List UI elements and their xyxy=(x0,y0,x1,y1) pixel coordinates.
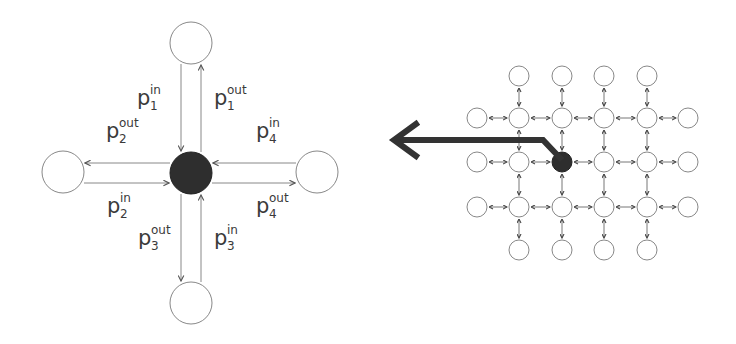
boundary-node-south xyxy=(509,240,529,260)
label-superscript: in xyxy=(269,117,280,129)
label-superscript: in xyxy=(120,192,131,204)
label-base: p xyxy=(256,119,269,143)
label-base: p xyxy=(107,194,120,218)
label-p1in: pin1 xyxy=(137,88,150,109)
label-base: p xyxy=(137,86,150,110)
grid-node xyxy=(637,152,657,172)
neighbor-node-north xyxy=(170,22,212,64)
grid-node xyxy=(552,197,572,217)
boundary-node-west xyxy=(467,108,487,128)
boundary-node-north xyxy=(594,66,614,86)
label-p4out: pout4 xyxy=(256,196,269,217)
diagram-canvas xyxy=(0,0,736,344)
label-superscript: in xyxy=(150,84,161,96)
neighbor-node-east xyxy=(296,151,338,193)
label-base: p xyxy=(138,226,151,250)
label-superscript: out xyxy=(119,117,139,129)
label-subscript: 1 xyxy=(150,100,158,112)
label-subscript: 4 xyxy=(269,133,277,145)
label-p2in: pin2 xyxy=(107,196,120,217)
label-base: p xyxy=(214,226,227,250)
label-p4in: pin4 xyxy=(256,121,269,142)
grid-node xyxy=(594,108,614,128)
label-subscript: 2 xyxy=(120,208,128,220)
label-superscript: out xyxy=(269,192,289,204)
grid-node xyxy=(509,197,529,217)
label-subscript: 2 xyxy=(119,133,127,145)
grid-node xyxy=(594,197,614,217)
label-superscript: out xyxy=(151,224,171,236)
neighbor-node-west xyxy=(42,151,84,193)
label-superscript: in xyxy=(227,224,238,236)
grid-node xyxy=(594,152,614,172)
boundary-node-north xyxy=(637,66,657,86)
grid-node xyxy=(509,108,529,128)
boundary-node-south xyxy=(637,240,657,260)
label-p1out: pout1 xyxy=(214,88,227,109)
label-base: p xyxy=(106,119,119,143)
center-node xyxy=(170,152,212,194)
grid-node xyxy=(637,197,657,217)
neighbor-node-south xyxy=(170,282,212,324)
label-p3out: pout3 xyxy=(138,228,151,249)
label-subscript: 4 xyxy=(269,208,277,220)
boundary-node-west xyxy=(467,197,487,217)
label-subscript: 3 xyxy=(227,240,235,252)
single-node-diagram xyxy=(42,22,338,324)
label-base: p xyxy=(256,194,269,218)
grid-node xyxy=(637,108,657,128)
boundary-node-south xyxy=(552,240,572,260)
boundary-node-north xyxy=(552,66,572,86)
label-superscript: out xyxy=(227,84,247,96)
label-subscript: 1 xyxy=(227,100,235,112)
boundary-node-east xyxy=(678,197,698,217)
grid-node xyxy=(552,108,572,128)
label-base: p xyxy=(214,86,227,110)
label-p2out: pout2 xyxy=(106,121,119,142)
boundary-node-east xyxy=(678,152,698,172)
grid-network-diagram xyxy=(394,66,698,260)
boundary-node-south xyxy=(594,240,614,260)
grid-node xyxy=(509,152,529,172)
boundary-node-west xyxy=(467,152,487,172)
label-subscript: 3 xyxy=(151,240,159,252)
boundary-node-east xyxy=(678,108,698,128)
grid-nodes xyxy=(467,66,698,260)
label-p3in: pin3 xyxy=(214,228,227,249)
boundary-node-north xyxy=(509,66,529,86)
